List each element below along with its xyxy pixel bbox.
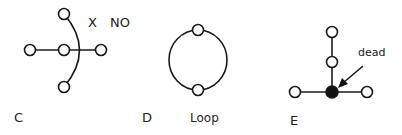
node — [362, 87, 373, 98]
dead-node — [326, 86, 338, 98]
panel-d-letter: D — [142, 110, 152, 125]
node — [327, 27, 338, 38]
node — [59, 45, 70, 56]
panel-c-letter: C — [14, 110, 23, 125]
no-label: NO — [110, 15, 130, 30]
panel-d — [169, 25, 227, 96]
panel-e-letter: E — [290, 113, 298, 128]
node — [59, 82, 70, 93]
node — [290, 87, 301, 98]
x-mark: X — [88, 15, 97, 30]
node — [59, 9, 70, 20]
panel-e — [290, 27, 373, 99]
loop-caption: Loop — [190, 111, 219, 125]
loop-edge — [169, 30, 227, 90]
node — [96, 45, 107, 56]
diagram-canvas: X NO C D Loop dead E — [0, 0, 402, 135]
node — [25, 45, 36, 56]
node — [193, 85, 204, 96]
arrow-shaft — [343, 66, 363, 83]
node — [327, 57, 338, 68]
dead-label: dead — [358, 46, 385, 59]
node — [193, 25, 204, 36]
